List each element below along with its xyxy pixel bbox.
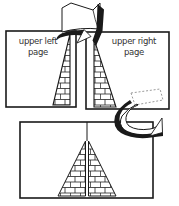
upper-left-page-label: upper left page <box>8 36 68 58</box>
upper-left-label-line1: upper left <box>8 36 68 47</box>
upper-right-label-line2: page <box>101 47 167 58</box>
diagram-canvas: upper left page upper right page <box>0 0 179 206</box>
upper-left-label-line2: page <box>8 47 68 58</box>
pyramid-spread-diagram <box>0 0 179 206</box>
upper-right-label-line1: upper right <box>101 36 167 47</box>
upper-right-page-label: upper right page <box>101 36 167 58</box>
